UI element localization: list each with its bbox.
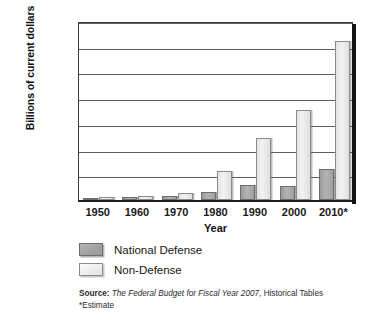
gridline [79, 152, 352, 153]
bar-non-defense-1980 [217, 171, 232, 200]
bar-national-defense-1950 [83, 198, 98, 200]
gridline [79, 74, 352, 75]
bar-non-defense-1950 [99, 197, 114, 200]
bar-non-defense-2010 [335, 41, 350, 200]
gridline [79, 100, 352, 101]
source-title: The Federal Budget for Fiscal Year 2007 [112, 289, 259, 298]
legend-item-non-defense: Non-Defense [79, 261, 202, 278]
legend-label-non-defense: Non-Defense [114, 264, 182, 276]
source-suffix: , Historical Tables [259, 289, 323, 298]
legend-item-national-defense: National Defense [79, 241, 202, 258]
estimate-note: *Estimate [79, 300, 374, 311]
bar-national-defense-2000 [280, 186, 295, 200]
bar-non-defense-1990 [256, 138, 271, 200]
gridline [79, 23, 352, 24]
budget-bar-chart-figure: Billions of current dollars Year Nationa… [0, 0, 383, 320]
legend-label-national-defense: National Defense [114, 244, 202, 256]
plot-area [78, 22, 353, 202]
gridline [79, 49, 352, 50]
bar-non-defense-2000 [296, 110, 311, 200]
source-label: Source: [79, 289, 109, 298]
bar-non-defense-1970 [178, 193, 193, 200]
source-line: Source: The Federal Budget for Fiscal Ye… [79, 288, 374, 299]
source-notes: Source: The Federal Budget for Fiscal Ye… [79, 288, 374, 311]
gridline [79, 177, 352, 178]
y-axis-title: Billions of current dollars [24, 0, 36, 158]
x-axis-title: Year [78, 222, 353, 234]
gridline [79, 126, 352, 127]
legend-swatch-non-defense [79, 263, 103, 276]
legend-swatch-national-defense [79, 243, 103, 256]
bar-national-defense-2010 [319, 169, 334, 200]
bar-national-defense-1960 [122, 197, 137, 200]
bar-national-defense-1990 [240, 185, 255, 200]
bar-national-defense-1970 [162, 196, 177, 200]
bar-non-defense-1960 [138, 196, 153, 200]
bar-national-defense-1980 [201, 192, 216, 200]
x-axis-tick-label: 2010* [305, 206, 361, 218]
chart-legend: National Defense Non-Defense [79, 241, 202, 281]
plot-frame-shadow [352, 24, 356, 204]
